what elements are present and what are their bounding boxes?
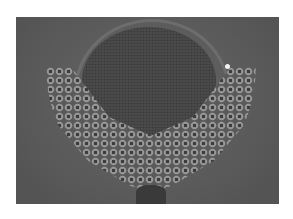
light-reflection [225,64,230,69]
photo [16,17,279,204]
stem [136,185,166,204]
